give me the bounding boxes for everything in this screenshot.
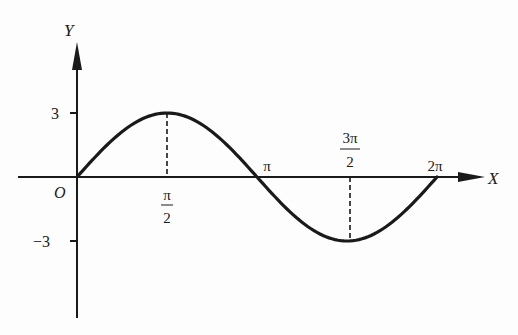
x-tick-pi-over-2-den: 2 xyxy=(163,210,171,226)
x-axis-label: X xyxy=(487,169,499,188)
x-tick-3pi-over-2-num: 3π xyxy=(342,130,358,146)
y-axis-label: Y xyxy=(64,21,75,40)
x-tick-pi-over-2-num: π xyxy=(163,187,171,203)
x-tick-2pi: 2π xyxy=(427,158,443,174)
y-axis-arrow-icon xyxy=(72,42,82,70)
y-tick-label-neg3: −3 xyxy=(33,233,50,250)
sine-graph: Y X O 3 −3 π 2 π 3π 2 2π xyxy=(0,0,518,335)
y-tick-label-3: 3 xyxy=(51,105,59,122)
x-tick-pi: π xyxy=(263,158,271,174)
chart-svg: Y X O 3 −3 π 2 π 3π 2 2π xyxy=(0,0,518,335)
x-axis-arrow-icon xyxy=(458,172,485,182)
origin-label: O xyxy=(54,184,66,201)
x-tick-3pi-over-2-den: 2 xyxy=(346,154,354,170)
